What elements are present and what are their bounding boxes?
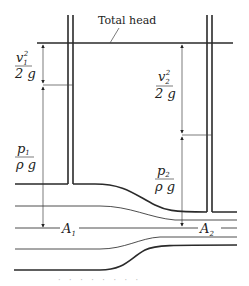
right-pressure-head-label: p2 ρ g: [154, 163, 175, 194]
total-head-label: Total head: [98, 14, 156, 27]
svg-text:p2: p2: [157, 163, 170, 179]
area-label-a2: A2: [199, 221, 214, 238]
right-velocity-head-label: v22 2 g: [154, 69, 176, 101]
left-velocity-head-label: v12 2 g: [14, 50, 36, 81]
pipe-top-wall: [15, 184, 237, 212]
svg-text:ρ g: ρ g: [15, 157, 36, 172]
footer-dots: · · · · · · · ·: [58, 276, 141, 285]
streamline-upper: [15, 206, 237, 220]
left-pressure-head-label: p1 ρ g: [15, 141, 36, 172]
svg-text:v22: v22: [158, 69, 171, 86]
venturi-diagram: Total head v12 2 g p1 ρ g v22: [0, 0, 249, 286]
svg-text:v12: v12: [16, 50, 29, 67]
svg-text:2 g: 2 g: [154, 86, 176, 101]
svg-text:ρ g: ρ g: [154, 179, 175, 194]
right-piezometer-tube: [207, 15, 212, 212]
left-piezometer-tube: [68, 15, 73, 184]
streamline-lower: [15, 237, 237, 249]
total-head-leader: [110, 28, 119, 43]
area-label-a1: A1: [61, 221, 76, 238]
svg-text:p1: p1: [17, 141, 30, 157]
svg-text:2 g: 2 g: [14, 66, 36, 81]
